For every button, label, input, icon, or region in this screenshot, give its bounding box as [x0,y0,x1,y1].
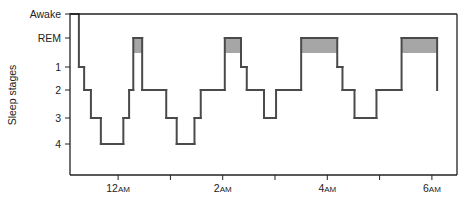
x-axis: 12AM2AM4AM6AM [70,175,457,194]
x-tick-label: 6AM [423,182,441,194]
x-tick-label: 2AM [214,182,232,194]
y-tick-label: 4 [55,138,61,150]
x-tick-label: 12AM [106,182,130,194]
x-tick-label: 4AM [318,182,336,194]
y-axis-label: Sleep stages [6,65,18,126]
sleep-trace-group [70,14,437,144]
rem-period [133,38,142,53]
y-tick-label: REM [38,32,61,44]
y-tick-label: 2 [55,84,61,96]
y-tick-label: 1 [55,61,61,73]
hypnogram-chart: Sleep stages AwakeREM1234 12AM2AM4AM6AM [0,0,467,203]
y-axis: AwakeREM1234 [30,8,70,175]
y-tick-label: Awake [30,8,61,20]
rem-period [402,38,438,53]
rem-period [301,38,337,53]
rem-period [225,38,241,53]
rem-shading-group [133,38,437,53]
y-tick-label: 3 [55,112,61,124]
